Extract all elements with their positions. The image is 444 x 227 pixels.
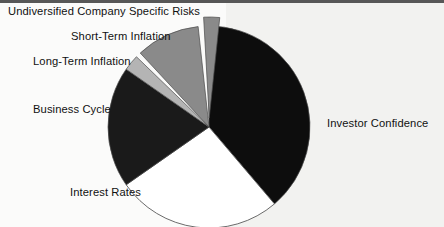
slice-label-business-cycle: Business Cycle	[33, 103, 111, 115]
slice-label-short-term-inflation: Short-Term Inflation	[71, 30, 171, 42]
slice-label-undiversified-company-specific-risks: Undiversified Company Specific Risks	[8, 5, 200, 17]
pie-chart-figure: Undiversified Company Specific Risks Sho…	[0, 0, 444, 227]
slice-label-long-term-inflation: Long-Term Inflation	[33, 55, 131, 67]
slice-label-interest-rates: Interest Rates	[70, 186, 141, 198]
slice-label-investor-confidence: Investor Confidence	[327, 117, 428, 129]
